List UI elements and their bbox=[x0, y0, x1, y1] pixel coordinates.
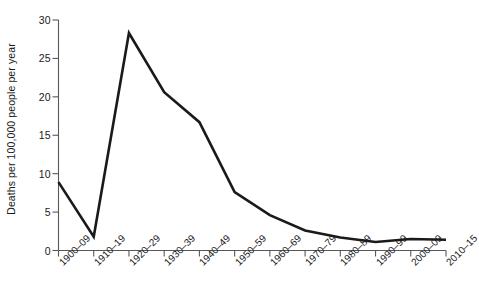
y-axis-tick-label: 20 bbox=[25, 91, 51, 103]
data-series-line bbox=[59, 33, 447, 242]
y-axis-tick-label: 15 bbox=[25, 129, 51, 141]
y-axis-ticks bbox=[53, 20, 59, 251]
y-axis-tick-label: 5 bbox=[25, 206, 51, 218]
y-axis-tick-label: 30 bbox=[25, 14, 51, 26]
y-axis-tick-label: 0 bbox=[25, 245, 51, 257]
y-axis-tick-label: 25 bbox=[25, 52, 51, 64]
y-axis-tick-label: 10 bbox=[25, 168, 51, 180]
